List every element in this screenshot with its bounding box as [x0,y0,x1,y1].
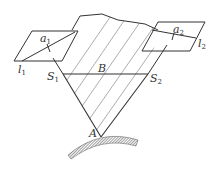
label-l2: l2 [198,37,206,51]
ray-s2-a [101,74,148,137]
line-l1 [22,32,75,61]
label-a1: a1 [40,32,51,46]
ray-s2-up [148,45,167,74]
diagram-canvas: a1 l1 a2 l2 S1 S2 B A [0,0,217,175]
label-a2: a2 [173,23,184,37]
top-edge [72,14,158,30]
label-l1: l1 [18,63,26,77]
label-b: B [97,62,106,75]
label-s1: S1 [47,70,59,84]
label-a: A [88,127,97,140]
ground-surface [68,136,138,159]
label-s2: S2 [150,72,162,86]
